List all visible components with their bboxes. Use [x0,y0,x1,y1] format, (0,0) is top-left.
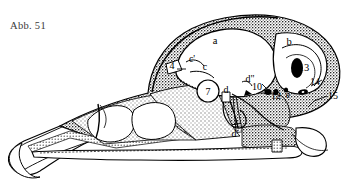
label-13: 13 [299,62,310,73]
jaw-articulation-stipple [242,125,298,149]
label-7: 7 [206,86,211,97]
label-d-prime: d' [232,128,239,139]
label-12: 12 [271,90,281,101]
figure-root: Abb. 51 [0,0,352,188]
label-4: 4 [170,60,175,71]
label-e: e [286,89,291,100]
label-c: c [203,61,208,72]
label-c-prime: c' [189,53,195,64]
label-15: 15 [328,90,338,101]
nasal-chamber-posterior [132,103,176,140]
label-10: 10 [252,81,262,92]
label-14: 14 [310,76,320,87]
skull-illustration: a b c' c 4 7 d d" 10 13 12 e 14 15 d' [0,0,352,188]
label-b: b [286,36,291,47]
label-d: d [224,84,229,95]
label-a: a [213,35,218,46]
articular-process [272,140,282,152]
